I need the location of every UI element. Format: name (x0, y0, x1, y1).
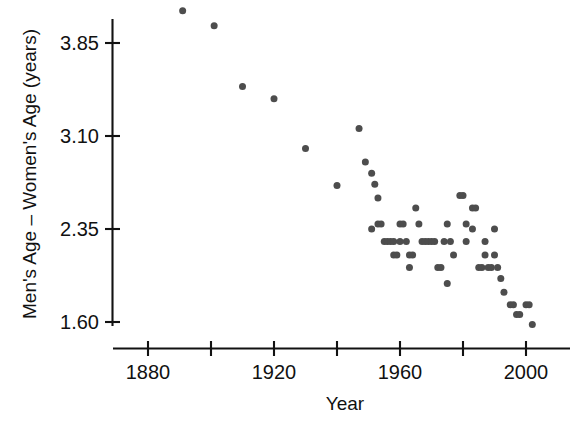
y-tick-label: 2.35 (60, 218, 99, 240)
data-point (239, 83, 246, 90)
data-point (516, 311, 523, 318)
data-point (397, 238, 404, 245)
data-point (393, 252, 400, 259)
data-point (463, 221, 470, 228)
data-point (460, 192, 467, 199)
data-point (378, 221, 385, 228)
data-point (368, 170, 375, 177)
data-point (415, 221, 422, 228)
x-tick-label: 1920 (252, 361, 297, 383)
y-tick-label-group: 1.602.353.103.85 (60, 32, 99, 333)
data-point (441, 238, 448, 245)
data-point (179, 7, 186, 14)
data-point (491, 252, 498, 259)
y-tick-label: 3.10 (60, 125, 99, 147)
data-point (412, 204, 419, 211)
data-point (390, 238, 397, 245)
data-point (368, 226, 375, 233)
data-point (472, 204, 479, 211)
data-point (510, 301, 517, 308)
data-point (450, 252, 457, 259)
x-axis-title: Year (326, 393, 365, 414)
data-point (406, 264, 413, 271)
data-point (431, 238, 438, 245)
data-point (469, 226, 476, 233)
x-tick-label-group: 1880192019602000 (126, 361, 549, 383)
data-point (437, 264, 444, 271)
data-point (403, 238, 410, 245)
data-point (444, 221, 451, 228)
data-point (526, 301, 533, 308)
scatter-plot-figure: 1.602.353.103.85 1880192019602000 Year M… (0, 0, 586, 435)
data-point (400, 221, 407, 228)
data-point (447, 238, 454, 245)
x-tick-label: 1880 (126, 361, 171, 383)
data-point (356, 125, 363, 132)
y-tick-label: 1.60 (60, 311, 99, 333)
data-point (482, 252, 489, 259)
data-point (334, 182, 341, 189)
data-point (211, 22, 218, 29)
data-point (302, 145, 309, 152)
data-point (478, 264, 485, 271)
data-point (409, 252, 416, 259)
y-axis-title: Men's Age – Women's Age (years) (19, 29, 40, 319)
x-tick-label: 1960 (378, 361, 423, 383)
data-point (374, 195, 381, 202)
y-tick-label: 3.85 (60, 32, 99, 54)
data-point (529, 321, 536, 328)
plot-canvas: 1.602.353.103.85 1880192019602000 Year M… (0, 0, 586, 435)
data-point (444, 280, 451, 287)
data-point (463, 238, 470, 245)
data-point (491, 226, 498, 233)
data-point (482, 238, 489, 245)
data-point (362, 159, 369, 166)
x-tick-label: 2000 (504, 361, 549, 383)
data-point (371, 181, 378, 188)
data-point-group (179, 7, 536, 328)
data-point (500, 289, 507, 296)
data-point (271, 95, 278, 102)
data-point (497, 275, 504, 282)
data-point (488, 264, 495, 271)
data-point (494, 264, 501, 271)
